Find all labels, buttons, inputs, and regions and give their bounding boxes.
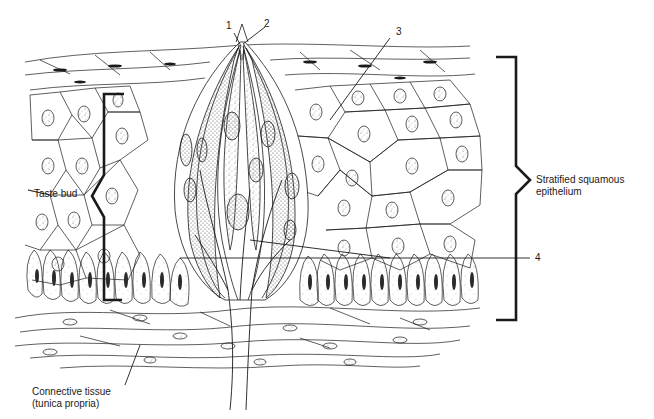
taste-bud-structure <box>174 24 308 410</box>
label-epithelium-line1: Stratified squamous <box>536 174 624 186</box>
callout-3: 3 <box>396 26 402 38</box>
taste-bud-diagram <box>0 0 654 419</box>
label-connective-tissue: Connective tissue (tunica propria) <box>32 386 111 410</box>
label-taste-bud: Taste bud <box>34 188 77 200</box>
label-stratified-squamous-epithelium: Stratified squamous epithelium <box>536 174 624 198</box>
label-connective-line1: Connective tissue <box>32 386 111 398</box>
epithelium-bracket <box>496 57 530 320</box>
label-connective-line2: (tunica propria) <box>32 398 111 410</box>
callout-1: 1 <box>226 20 232 32</box>
callout-2: 2 <box>264 18 270 30</box>
connective-tissue-layer <box>15 307 480 368</box>
callout-4: 4 <box>535 252 541 264</box>
label-epithelium-line2: epithelium <box>536 186 624 198</box>
